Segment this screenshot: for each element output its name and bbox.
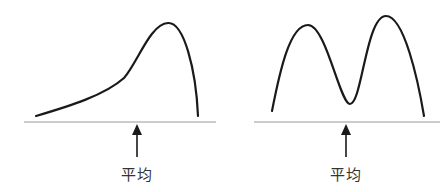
skewed-distribution-panel: 平均 bbox=[0, 0, 224, 192]
distribution-curve bbox=[36, 23, 198, 116]
mean-label: 平均 bbox=[330, 163, 362, 184]
distribution-curve bbox=[272, 16, 424, 116]
mean-label: 平均 bbox=[121, 163, 153, 184]
skewed-distribution-chart bbox=[0, 0, 224, 192]
bimodal-distribution-panel: 平均 bbox=[224, 0, 448, 192]
mean-arrow-icon bbox=[341, 124, 351, 157]
mean-arrow-icon bbox=[132, 124, 142, 157]
